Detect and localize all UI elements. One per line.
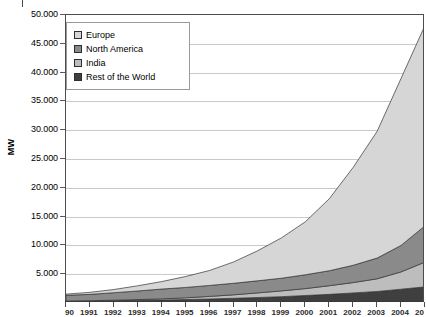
x-axis-tick-mark [400, 302, 401, 307]
x-axis-tick-mark [352, 302, 353, 307]
x-axis-tick-mark [185, 302, 186, 307]
x-axis-tick-mark [137, 302, 138, 307]
legend-swatch-icon [74, 59, 82, 67]
x-axis-tick-mark [376, 302, 377, 307]
legend-item-label: North America [86, 45, 143, 54]
x-axis-tick-label: 1992 [104, 308, 122, 317]
x-axis-labels: 1990199119921993199419951996199719981999… [65, 308, 424, 317]
x-axis-tick-mark [424, 302, 425, 307]
x-axis-tick-mark [256, 302, 257, 307]
y-axis-tick-label: 30.000 [31, 124, 58, 134]
x-axis-tick-mark [233, 302, 234, 307]
y-axis-labels: 50.00045.00040.00035.00030.00025.00020.0… [0, 0, 62, 317]
x-axis-tick-label: 2003 [367, 308, 385, 317]
y-axis-tick-label: 35.000 [31, 95, 58, 105]
y-axis-tick-label: 45.000 [31, 38, 58, 48]
x-axis-tick-mark [304, 302, 305, 307]
legend-swatch-icon [74, 73, 82, 81]
chart-legend: EuropeNorth AmericaIndiaRest of the Worl… [66, 22, 190, 90]
legend-item-label: Rest of the World [86, 73, 155, 82]
x-axis-tick-label: 1991 [80, 308, 98, 317]
legend-item-label: Europe [86, 31, 115, 40]
x-axis-tick-mark [280, 302, 281, 307]
area-chart: MW 50.00045.00040.00035.00030.00025.0002… [0, 0, 426, 317]
x-axis-tick-label: 2002 [343, 308, 361, 317]
legend-item[interactable]: North America [74, 42, 183, 56]
x-axis-tick-label: 1999 [271, 308, 289, 317]
x-axis-tick-label: 1998 [248, 308, 266, 317]
legend-swatch-icon [74, 31, 82, 39]
x-axis-tick-label: 2005 [415, 308, 424, 317]
x-axis-tick-label: 1993 [128, 308, 146, 317]
y-axis-tick-label: 10.000 [31, 239, 58, 249]
x-axis-tick-label: 1997 [224, 308, 242, 317]
x-axis-tick-label: 1996 [200, 308, 218, 317]
legend-swatch-icon [74, 45, 82, 53]
x-axis-tick-label: 1990 [65, 308, 74, 317]
x-axis-tick-mark [89, 302, 90, 307]
legend-item[interactable]: Europe [74, 28, 183, 42]
x-axis-tick-label: 2004 [391, 308, 409, 317]
y-axis-tick-label: 40.000 [31, 67, 58, 77]
x-axis-tick-label: 1994 [152, 308, 170, 317]
y-axis-tick-label: 5.000 [36, 268, 58, 278]
x-axis-tick-mark [113, 302, 114, 307]
legend-item[interactable]: India [74, 56, 183, 70]
x-axis-tick-mark [65, 302, 66, 307]
y-axis-tick-label: 15.000 [31, 211, 58, 221]
y-axis-tick-label: 50.000 [31, 9, 58, 19]
x-axis-tick-mark [209, 302, 210, 307]
x-axis-tick-label: 1995 [176, 308, 194, 317]
x-axis-tick-label: 2001 [319, 308, 337, 317]
legend-item-label: India [86, 59, 106, 68]
x-axis-tick-mark [161, 302, 162, 307]
x-axis-tick-label: 2000 [295, 308, 313, 317]
x-axis-tick-mark [328, 302, 329, 307]
y-axis-tick-label: 20.000 [31, 182, 58, 192]
y-axis-tick-label: 25.000 [31, 153, 58, 163]
legend-item[interactable]: Rest of the World [74, 70, 183, 84]
